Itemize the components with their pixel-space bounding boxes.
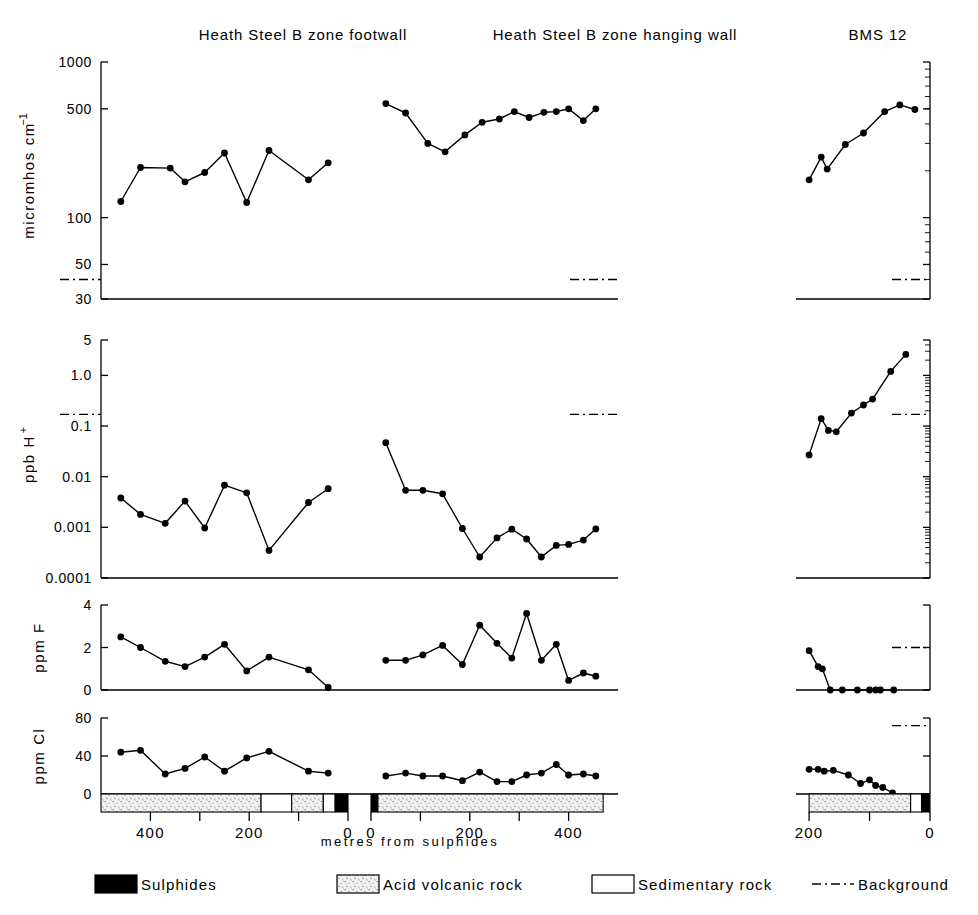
data-point <box>182 765 189 772</box>
data-point <box>508 526 515 533</box>
y-axis-label: ppm F <box>30 622 47 673</box>
y-tick-label: 0.001 <box>54 519 92 535</box>
legend-swatch-solid-black <box>95 875 137 893</box>
data-point <box>137 644 144 651</box>
data-point <box>541 109 548 116</box>
y-tick-label: 40 <box>75 748 92 764</box>
y-axis-label: ppb H+ <box>17 427 37 483</box>
data-point <box>162 658 169 665</box>
y-tick-label: 1000 <box>58 54 92 70</box>
lithology-segment-sedimentary <box>261 794 292 812</box>
data-point <box>806 176 813 183</box>
data-point <box>553 761 560 768</box>
x-axis-label: metres from sulphides <box>321 834 499 849</box>
data-point <box>860 130 867 137</box>
data-point <box>243 755 250 762</box>
data-point <box>580 771 587 778</box>
data-point <box>887 368 894 375</box>
data-point <box>845 772 852 779</box>
data-point <box>420 487 427 494</box>
data-point <box>538 770 545 777</box>
data-point <box>494 535 501 542</box>
data-point <box>848 410 855 417</box>
data-point <box>201 754 208 761</box>
data-point <box>201 525 208 532</box>
data-point <box>243 668 250 675</box>
x-tick-label: 0 <box>925 824 935 841</box>
data-point <box>182 663 189 670</box>
data-point <box>439 773 446 780</box>
data-point <box>553 542 560 549</box>
lithology-segment-acid-volcanic <box>292 794 324 812</box>
y-tick-label: 0.01 <box>62 469 92 485</box>
data-point <box>819 665 826 672</box>
legend-item: Sulphides <box>95 875 217 893</box>
y-tick-label: 0.0001 <box>46 570 92 586</box>
data-point <box>806 452 813 459</box>
data-point <box>877 687 884 694</box>
data-point <box>402 487 409 494</box>
data-point <box>553 641 560 648</box>
data-point <box>879 784 886 791</box>
data-point <box>818 415 825 422</box>
data-point <box>462 132 469 139</box>
data-point <box>182 498 189 505</box>
lithology-segment-acid-volcanic <box>378 794 603 812</box>
svg-text:−1: −1 <box>17 113 29 126</box>
data-point <box>857 780 864 787</box>
y-tick-label: 30 <box>75 291 92 307</box>
data-point <box>420 652 427 659</box>
data-point <box>806 647 813 654</box>
data-point <box>508 778 515 785</box>
svg-text:+: + <box>17 427 29 433</box>
data-point <box>243 489 250 496</box>
x-tick-label: 400 <box>554 824 583 841</box>
x-tick-label: 400 <box>136 824 165 841</box>
data-point <box>424 140 431 147</box>
data-point <box>565 105 572 112</box>
data-point <box>221 641 228 648</box>
data-point <box>439 490 446 497</box>
lithology-segment-sulphides <box>922 794 930 812</box>
figure-root: Heath Steel B zone footwall Heath Steel … <box>0 0 978 915</box>
data-point <box>459 777 466 784</box>
data-point <box>553 108 560 115</box>
legend-label: Background <box>858 876 949 893</box>
lithology-segment-acid-volcanic <box>101 794 261 812</box>
legend-label: Acid volcanic rock <box>383 876 523 893</box>
svg-text:ppm F: ppm F <box>30 622 47 673</box>
data-point <box>201 654 208 661</box>
data-point <box>580 537 587 544</box>
legend-swatch-white <box>592 875 634 893</box>
data-point <box>325 485 332 492</box>
y-tick-label: 0 <box>84 682 92 698</box>
lithology-segment-sulphides <box>371 794 378 812</box>
column-title-hangingwall: Heath Steel B zone hanging wall <box>493 26 738 43</box>
x-tick-label: 200 <box>795 824 824 841</box>
data-point <box>266 654 273 661</box>
data-point <box>442 148 449 155</box>
column-title-footwall: Heath Steel B zone footwall <box>199 26 408 43</box>
legend-item: Acid volcanic rock <box>337 875 523 893</box>
data-point <box>806 766 813 773</box>
legend-item: Sedimentary rock <box>592 875 772 893</box>
y-axis-label: micromhos cm−1 <box>17 113 37 239</box>
svg-text:ppm Cl: ppm Cl <box>30 727 47 784</box>
data-point <box>565 677 572 684</box>
data-point <box>266 147 273 154</box>
data-point <box>221 768 228 775</box>
data-point <box>266 547 273 554</box>
data-point <box>881 108 888 115</box>
data-point <box>476 769 483 776</box>
data-point <box>866 687 873 694</box>
data-point <box>325 770 332 777</box>
lithology-segment-sulphides <box>335 794 348 812</box>
data-point <box>117 495 124 502</box>
data-point <box>818 154 825 161</box>
data-point <box>382 100 389 107</box>
y-tick-label: 500 <box>67 101 92 117</box>
data-point <box>523 536 530 543</box>
data-point <box>266 748 273 755</box>
data-point <box>839 687 846 694</box>
data-point <box>833 428 840 435</box>
